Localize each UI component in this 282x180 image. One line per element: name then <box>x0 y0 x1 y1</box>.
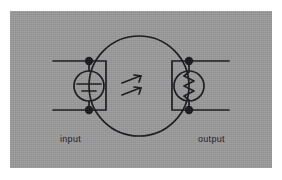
node-dot-input-bottom <box>85 106 93 114</box>
node-dot-output-top <box>185 57 193 65</box>
node-dot-output-bottom <box>185 106 193 114</box>
coupling-arrow-lower-shaft <box>122 88 140 95</box>
wireless-coupling-arrows <box>122 75 141 95</box>
circuit-schematic <box>10 11 272 168</box>
terminal-node-dots <box>85 57 193 114</box>
input-label: input <box>60 134 81 144</box>
output-label: output <box>198 134 225 144</box>
node-dot-input-top <box>85 57 93 65</box>
coupling-arrow-upper-shaft <box>122 76 140 83</box>
figure-panel: input output <box>10 11 272 168</box>
screenshot-root: input output <box>0 0 282 180</box>
